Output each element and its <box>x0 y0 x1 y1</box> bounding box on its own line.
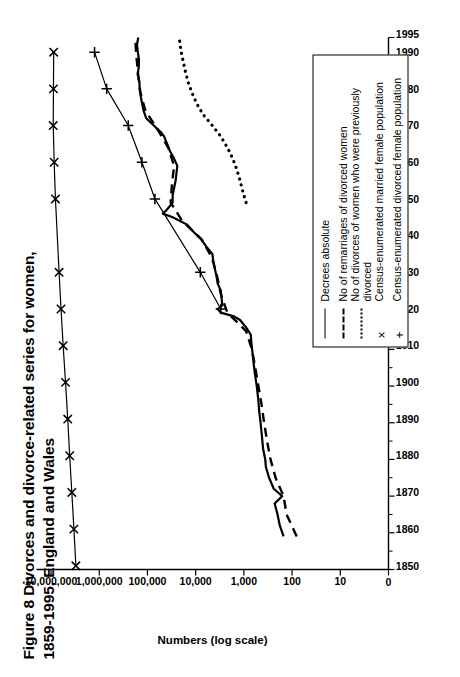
series-group <box>49 37 297 570</box>
y-axis-tick-label: 100 <box>283 575 301 587</box>
x-axis-tick-label: 1870 <box>395 486 419 498</box>
x-axis-tick-label: 1850 <box>395 559 419 571</box>
legend-entry[interactable]: No of divorces of women who were previou… <box>351 55 368 346</box>
x-axis-tick-label: 1890 <box>395 412 419 424</box>
series-line <box>136 37 283 536</box>
x-axis-tick-label: 1995 <box>395 27 419 39</box>
x-axis-tick-label: 1900 <box>395 376 419 388</box>
x-axis-tick-label: 1880 <box>395 449 419 461</box>
legend-entry-label: Census-enumerated married female populat… <box>372 82 384 301</box>
plus-marker-icon <box>101 83 111 93</box>
figure: Figure 8 Divorces and divorce-related se… <box>0 0 460 677</box>
legend-entry-label: Decrees absolute <box>318 219 330 301</box>
series-line <box>179 37 246 202</box>
y-axis-tick-label: 1,000,000 <box>75 575 122 587</box>
series-line <box>94 52 220 309</box>
legend-entry[interactable]: Decrees absolute <box>315 219 332 346</box>
series-line <box>135 37 297 536</box>
rotated-figure-wrapper: Figure 8 Divorces and divorce-related se… <box>0 0 460 677</box>
legend: Decrees absolute No of remarriages of di… <box>312 54 408 347</box>
plus-marker-icon <box>136 157 146 167</box>
x-axis-tick-label: 1860 <box>395 522 419 534</box>
legend-entry-label: No of divorces of women who were previou… <box>348 55 372 301</box>
y-axis-tick-label: 100,000 <box>128 575 166 587</box>
series-5 <box>89 46 226 313</box>
legend-entry-label: Census-enumerated divorced female popula… <box>390 77 402 301</box>
y-axis-tick-label: 10,000 <box>179 575 211 587</box>
series-3 <box>179 37 246 202</box>
y-axis-tick-label: 0 <box>385 575 391 587</box>
plus-marker-icon <box>149 193 159 203</box>
dotted-line-icon <box>353 308 367 338</box>
y-axis-title: Numbers (log scale) <box>157 633 267 645</box>
page-canvas: Figure 8 Divorces and divorce-related se… <box>0 0 460 677</box>
legend-entry[interactable]: + Census-enumerated divorced female popu… <box>387 77 404 346</box>
legend-entry-label: No of remarriages of divorced women <box>336 126 348 301</box>
y-axis-tick-label: 1,000 <box>230 575 256 587</box>
series-1 <box>136 37 283 536</box>
plus-marker-icon <box>123 120 133 130</box>
plus-marker-icon <box>89 46 99 56</box>
dashed-line-icon <box>335 308 349 338</box>
plus-marker-glyph: + <box>392 331 406 338</box>
x-marker-icon: × <box>371 308 385 338</box>
plus-marker-icon: + <box>389 308 403 338</box>
plus-marker-icon <box>195 267 205 277</box>
y-axis-tick-label: 10,000,000 <box>24 575 77 587</box>
series-2 <box>135 37 297 536</box>
series-4 <box>49 47 80 569</box>
solid-line-icon <box>317 308 331 338</box>
x-marker-glyph: × <box>374 331 388 338</box>
y-axis-tick-label: 10 <box>334 575 346 587</box>
legend-entry[interactable]: × Census-enumerated married female popul… <box>369 82 386 346</box>
